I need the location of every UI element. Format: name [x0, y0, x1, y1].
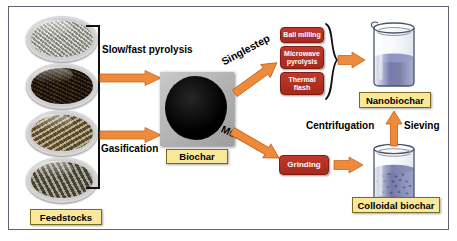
- biochar-blob: [165, 76, 227, 140]
- treatment-box-microwave-pyrolysis-text: Microwave pyrolysis: [281, 50, 323, 65]
- arrow-separation-up: [385, 111, 403, 147]
- route-label-pyrolysis: Slow/fast pyrolysis: [102, 44, 193, 56]
- dish-contents-2: [31, 68, 93, 104]
- arrow-to-nanobiochar: [338, 51, 366, 69]
- feedstocks-label: Feedstocks: [30, 209, 102, 225]
- biochar-label: Biochar: [166, 149, 228, 164]
- treatment-box-ball-milling[interactable]: Ball milling: [280, 27, 324, 43]
- dish-contents-1: [31, 21, 93, 57]
- feedstock-bracket: [86, 25, 100, 189]
- route-label-pyrolysis-text: Slow/fast pyrolysis: [102, 44, 193, 55]
- treatment-box-thermal-flash[interactable]: Thermal flash: [280, 72, 324, 95]
- dish-contents-3: [31, 115, 93, 151]
- centrifugation-label: Centrifugation: [306, 120, 374, 131]
- treatment-box-thermal-flash-text: Thermal flash: [281, 76, 323, 91]
- nanobiochar-label: Nanobiochar: [359, 92, 431, 108]
- sieving-label: Sieving: [404, 120, 440, 131]
- arrow-pyrolysis: [100, 70, 162, 86]
- route-label-gasification: Gasification: [101, 143, 158, 154]
- treatment-box-microwave-pyrolysis[interactable]: Microwave pyrolysis: [280, 46, 324, 69]
- dish-contents-4: [31, 162, 93, 198]
- treatment-box-grinding[interactable]: Grinding: [279, 155, 329, 175]
- colloidal-biochar-label: Colloidal biochar: [352, 197, 440, 213]
- figure-root: Feedstocks Slow/fast pyrolysis Gasificat…: [0, 0, 457, 241]
- arrow-to-colloidal: [334, 156, 364, 174]
- arrow-gasification: [100, 127, 162, 143]
- nanobiochar-beaker: [366, 18, 422, 90]
